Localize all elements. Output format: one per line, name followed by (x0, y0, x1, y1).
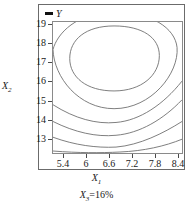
y-tick-mark (48, 24, 52, 25)
y-axis-title: X2 (2, 80, 12, 94)
x-tick-label: 6 (84, 159, 89, 169)
y-tick-mark (48, 120, 52, 121)
contour-path-4 (53, 100, 182, 136)
line-swatch-icon (45, 12, 53, 15)
legend-label: Y (56, 9, 62, 19)
y-tick-label: 14 (36, 115, 46, 125)
x-tick-label: 7.2 (126, 159, 139, 169)
x-tick-label: 5.4 (57, 159, 70, 169)
contour-path-5 (53, 121, 182, 147)
contour-path-1 (70, 26, 160, 91)
contour-chart: Y 19 18 17 16 15 14 13 (0, 0, 193, 207)
plot-panel (52, 21, 183, 154)
y-tick-label: 18 (36, 38, 46, 48)
y-tick-label: 16 (36, 76, 46, 86)
y-tick-label: 17 (36, 57, 46, 67)
contour-path-2 (53, 22, 177, 109)
figure-caption: X3=16% (0, 189, 193, 203)
y-tick-mark (48, 62, 52, 63)
y-tick-label: 13 (36, 134, 46, 144)
caption-value: =16% (89, 189, 113, 200)
y-tick-label: 15 (36, 96, 46, 106)
y-axis-title-subscript: 2 (8, 86, 12, 94)
x-tick-label: 7.8 (149, 159, 162, 169)
legend: Y (45, 8, 62, 19)
y-tick-mark (48, 43, 52, 44)
x-tick-label: 8.4 (172, 159, 185, 169)
x-axis-title: X1 (0, 172, 193, 186)
y-tick-label: 19 (36, 19, 46, 29)
y-tick-mark (48, 101, 52, 102)
contour-path-6 (53, 139, 182, 152)
y-tick-mark (48, 81, 52, 82)
x-axis-title-subscript: 1 (98, 178, 102, 186)
contour-lines (53, 22, 182, 153)
x-tick-label: 6.6 (103, 159, 116, 169)
y-tick-mark (48, 139, 52, 140)
